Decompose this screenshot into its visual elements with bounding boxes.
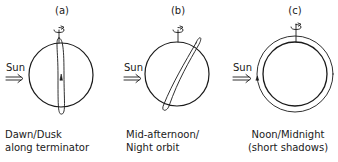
- satellite-direction-icon: [256, 76, 259, 80]
- earth-circle: [263, 42, 327, 106]
- panel-b-globe: [145, 26, 209, 110]
- sun-label-c: Sun: [233, 62, 252, 73]
- caption-b-line2: Night orbit: [126, 141, 199, 154]
- panel-label-b: (b): [163, 5, 193, 17]
- panel-label-a: (a): [47, 5, 77, 17]
- caption-a-line1: Dawn/Dusk: [5, 128, 89, 141]
- satellite-direction-icon: [60, 74, 62, 80]
- orbit-ring: [257, 36, 333, 112]
- caption-c: Noon/Midnight (short shadows): [242, 128, 334, 154]
- orbit-path: [163, 38, 201, 111]
- panel-c-globe: [256, 23, 333, 112]
- panel-b-sun-arrow: [124, 75, 141, 83]
- earth-circle: [145, 42, 209, 106]
- caption-a-line2: along terminator: [5, 141, 89, 154]
- sun-label-a: Sun: [6, 62, 25, 73]
- panel-a-sun-arrow: [6, 75, 23, 83]
- sun-arrow-head-icon: [18, 75, 23, 83]
- sun-arrow-head-icon: [136, 75, 141, 83]
- sun-label-b: Sun: [124, 62, 143, 73]
- caption-b: Mid-afternoon/ Night orbit: [126, 128, 199, 154]
- panel-label-c: (c): [280, 5, 310, 17]
- caption-c-line1: Noon/Midnight: [242, 128, 334, 141]
- caption-b-line1: Mid-afternoon/: [126, 128, 199, 141]
- panel-c-sun-arrow: [233, 75, 251, 83]
- caption-c-line2: (short shadows): [242, 141, 334, 154]
- panel-a-globe: [29, 26, 93, 114]
- sun-arrow-head-icon: [246, 75, 251, 83]
- caption-a: Dawn/Dusk along terminator: [5, 128, 89, 154]
